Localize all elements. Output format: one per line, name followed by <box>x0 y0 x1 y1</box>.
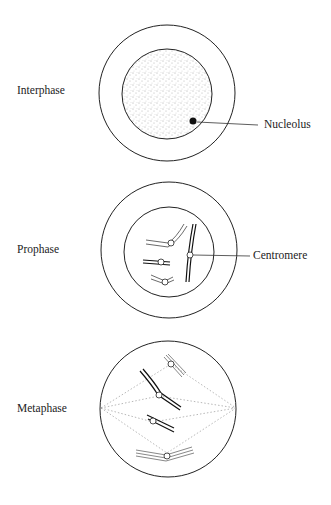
stage-label-interphase: Interphase <box>17 84 65 96</box>
annotation-nucleolus: Nucleolus <box>264 118 311 130</box>
annotation-centromere: Centromere <box>253 249 307 261</box>
centromere-leader-line <box>193 255 250 256</box>
interphase-cell <box>99 25 258 161</box>
nucleus <box>122 49 212 139</box>
stage-label-metaphase: Metaphase <box>17 402 67 414</box>
metaphase-cell <box>100 341 236 477</box>
prophase-cell <box>101 182 250 318</box>
stage-label-prophase: Prophase <box>17 243 59 255</box>
nucleolus <box>190 118 197 125</box>
